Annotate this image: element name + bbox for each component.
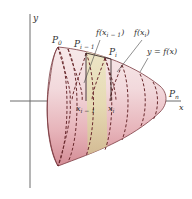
surface-body xyxy=(47,40,166,170)
label-pn: Pn xyxy=(168,89,179,100)
label-f-xi: f(xi) xyxy=(133,28,150,38)
label-pi: Pi xyxy=(108,47,117,58)
label-pi-minus-1: Pi − 1 xyxy=(73,39,95,50)
x-axis-label: x xyxy=(179,103,184,112)
label-curve: y = f(x) xyxy=(146,47,177,56)
label-f-xi-minus-1: f(xi − 1) xyxy=(95,28,124,38)
surface-of-revolution-diagram: y x P0 Pi − 1 Pi Pn f(xi − 1) f(xi) y = … xyxy=(0,0,192,199)
y-axis-label: y xyxy=(32,13,39,23)
leader-curve xyxy=(140,58,148,72)
label-p0: P0 xyxy=(51,35,62,46)
